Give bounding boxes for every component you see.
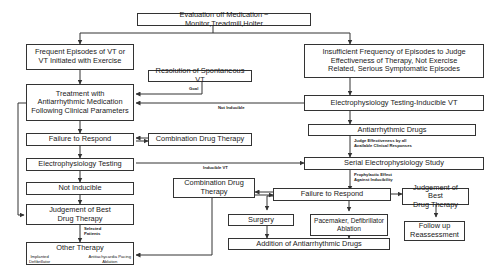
failure-left-node: Failure to Respond (26, 133, 134, 146)
not-inducible-label: Not Inducible (218, 105, 245, 110)
judge-line2: Available Clinical Responses (354, 143, 412, 148)
prophylactic-line2: Against Inducibility (354, 177, 393, 182)
antitachycardia-option: Antitachycardia Pacing Ablation (88, 254, 131, 264)
frequent-episodes-node: Frequent Episodes of VT or VT Initiated … (26, 44, 134, 70)
surgery-text: Surgery (248, 216, 274, 225)
antiarrhythmic-drugs-node: Antiarrhythmic Drugs (308, 124, 476, 136)
other-therapy-title: Other Therapy (56, 244, 104, 253)
inducible-vt-label: Inducible VT (203, 165, 228, 170)
serial-ep-study-node: Serial Electrophysiology Study (304, 157, 484, 170)
surgery-node: Surgery (228, 214, 294, 226)
pacemaker-line1: Pacemaker, Defibrillator (314, 217, 384, 225)
insufficient-line3: Related, Serious Symptomatic Episodes (328, 65, 460, 74)
selected-line2: Patients (84, 231, 101, 236)
failure-right-node: Failure to Respond (273, 188, 391, 201)
antitachy-line1: Antitachycardia Pacing (88, 254, 131, 259)
combination-left-text: Combination Drug Therapy (156, 135, 245, 144)
pacemaker-line2: Ablation (337, 225, 361, 233)
not-inducible-text: Not Inducible (58, 184, 101, 193)
frequent-episodes-line2: VT Initiated with Exercise (39, 57, 122, 66)
treatment-line3: Following Clinical Parameters (31, 107, 128, 116)
judge-effectiveness-label: Judge Effectiveness by all Available Cli… (354, 138, 412, 148)
judgement-right-line1: Judgement of Best (405, 184, 466, 201)
implanted-defibrillator-option: Implanted Defibrillator (29, 254, 50, 264)
follow-up-node: Follow up Reassessment (404, 221, 465, 241)
addition-drugs-node: Addition of Antiarrhythmic Drugs (228, 238, 390, 250)
resolution-vt-node: Resolution of Spontaneous VT (148, 70, 252, 82)
ep-testing-node: Electrophysiology Testing (26, 158, 134, 171)
prophylactic-label: Prophylactic Effect Against Inducibility (354, 172, 393, 182)
pacemaker-node: Pacemaker, Defibrillator Ablation (310, 214, 388, 236)
judgement-right-line2: Drug Therapy (413, 201, 458, 210)
resolution-vt-text: Resolution of Spontaneous VT (151, 67, 249, 84)
evaluation-node: Evaluation off Medication ~ Monitor,Trea… (137, 13, 311, 26)
judgement-left-node: Judgement of Best Drug Therapy (26, 204, 134, 225)
failure-right-text: Failure to Respond (301, 190, 363, 199)
combination-left-node: Combination Drug Therapy (148, 133, 252, 146)
other-therapy-options: Implanted Defibrillator Antitachycardia … (29, 254, 131, 264)
addition-drugs-text: Addition of Antiarrhythmic Drugs (256, 240, 362, 249)
judgement-left-line2: Drug Therapy (57, 215, 102, 224)
antitachy-line2: Ablation (88, 259, 131, 264)
selected-patients-label: Selected Patients (84, 226, 101, 236)
not-inducible-node: Not Inducible (26, 182, 134, 195)
other-therapy-node: Other Therapy Implanted Defibrillator An… (26, 242, 134, 265)
judgement-right-node: Judgement of Best Drug Therapy (402, 188, 469, 205)
ep-testing-text: Electrophysiology Testing (38, 160, 121, 169)
follow-up-line2: Reassessment (410, 231, 459, 240)
evaluation-text: Evaluation off Medication ~ Monitor,Trea… (140, 11, 308, 28)
failure-left-text: Failure to Respond (49, 135, 111, 144)
treatment-node: Treatment with Antiarrhythmic Medication… (26, 84, 134, 121)
ep-testing-inducible-node: Electrophysiology Testing-Inducible VT (304, 95, 484, 111)
insufficient-frequency-node: Insufficient Frequency of Episodes to Ju… (304, 44, 484, 78)
ep-testing-inducible-text: Electrophysiology Testing-Inducible VT (331, 99, 458, 108)
antiarrhythmic-drugs-text: Antiarrhythmic Drugs (358, 126, 427, 135)
combination-mid-line2: Therapy (200, 188, 227, 197)
combination-mid-node: Combination Drug Therapy (173, 178, 255, 198)
implanted-line2: Defibrillator (29, 259, 50, 264)
implanted-line1: Implanted (29, 254, 50, 259)
serial-ep-study-text: Serial Electrophysiology Study (344, 159, 444, 168)
goal-label: Goal (189, 86, 198, 91)
